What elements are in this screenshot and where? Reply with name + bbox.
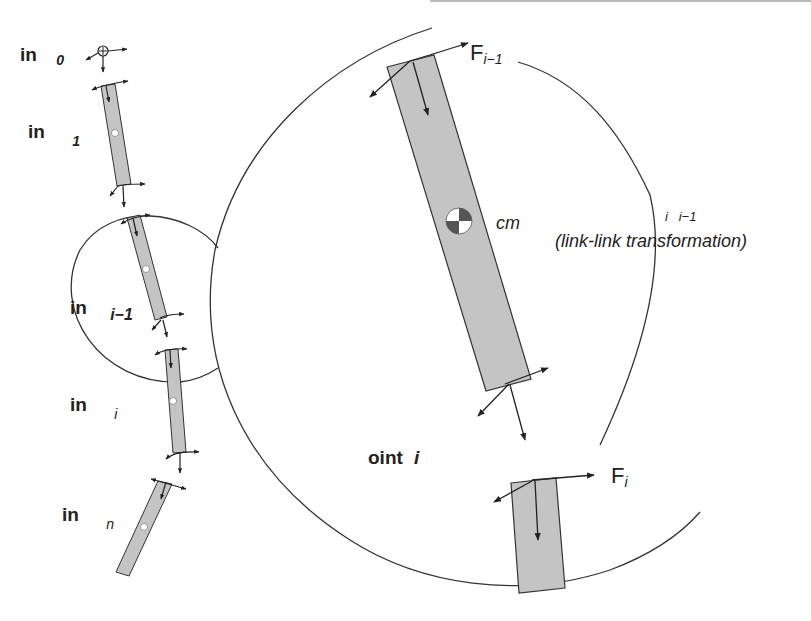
transform-indices: i i−1 [665, 210, 696, 223]
center-of-mass-label: cm [496, 214, 520, 232]
joint-label: oint i [368, 448, 419, 467]
detail-link-bar [370, 43, 548, 440]
detail-next-link-bar [494, 475, 594, 593]
force-top-subscript: i−1 [483, 51, 502, 67]
link-n-prefix: in [62, 504, 79, 525]
center-of-mass-icon [446, 208, 472, 234]
link-i-label: in i [70, 395, 117, 414]
link-1-subscript: 1 [72, 133, 80, 149]
link-i-subscript: i [114, 406, 117, 422]
robot-link-diagram: in 0 in 1 in i−1 in i in n Fi−1 Fi cm i … [0, 0, 811, 621]
link-0-subscript: 0 [56, 52, 64, 68]
link-1-bar [92, 81, 145, 207]
link-1-label: in 1 [28, 122, 80, 141]
link-n-cm-icon [141, 524, 148, 531]
force-top-base: F [470, 40, 483, 65]
base-frame-link-0 [86, 46, 127, 72]
link-n-subscript: n [106, 516, 114, 532]
force-bottom-base: F [611, 463, 624, 488]
joint-label-index: i [414, 447, 419, 468]
force-bottom-subscript: i [624, 474, 627, 490]
link-i-prefix: in [70, 394, 87, 415]
link-i-bar [155, 349, 199, 473]
link-i-minus-1-cm-icon [143, 266, 150, 273]
link-1-prefix: in [28, 121, 45, 142]
link-1-cm-icon [112, 130, 119, 137]
link-i-minus-1-prefix: in [70, 297, 87, 318]
link-n-bar [116, 479, 186, 576]
link-n-label: in n [62, 505, 114, 524]
link-i-cm-icon [170, 398, 177, 405]
link-0-label: in 0 [20, 45, 64, 64]
transform-label: (link-link transformation) [555, 232, 747, 250]
link-i-minus-1-subscript: i−1 [110, 306, 133, 323]
force-bottom-label: Fi [611, 465, 628, 489]
zoom-circle-large [210, 28, 700, 586]
joint-label-prefix: oint [368, 447, 403, 468]
force-top-label: Fi−1 [470, 42, 503, 66]
link-0-prefix: in [20, 44, 37, 65]
link-i-minus-1-label: in i−1 [70, 298, 133, 317]
